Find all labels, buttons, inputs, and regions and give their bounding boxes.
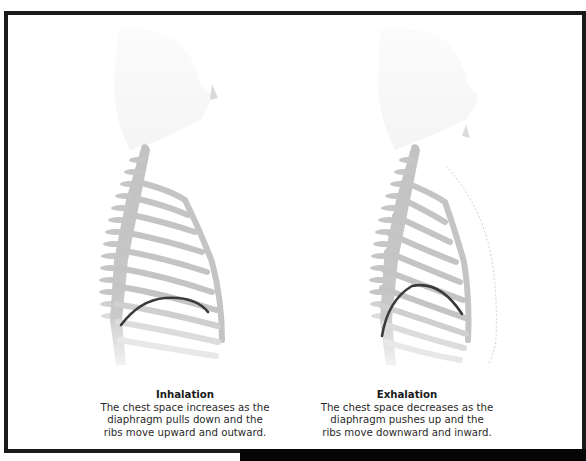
inhalation-text-line-3: ribs move upward and outward. [75,427,295,440]
exhalation-text-line-2: diaphragm pushes up and the [297,414,517,427]
inhalation-text-line-1: The chest space increases as the [75,402,295,415]
exhalation-text-line-3: ribs move downward and inward. [297,427,517,440]
exhalation-title: Exhalation [297,389,517,402]
exhalation-text-line-1: The chest space decreases as the [297,402,517,415]
inhalation-caption: Inhalation The chest space increases as … [75,389,295,439]
inhalation-title: Inhalation [75,389,295,402]
inhalation-text-line-2: diaphragm pulls down and the [75,414,295,427]
exhalation-caption: Exhalation The chest space decreases as … [297,389,517,439]
